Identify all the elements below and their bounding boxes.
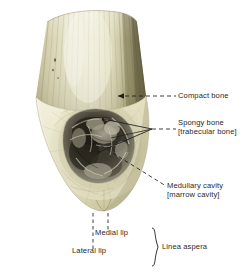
medullary-cavity	[63, 109, 136, 184]
cut-face	[36, 96, 150, 211]
label-medial-lip: Medial lip	[95, 228, 128, 237]
label-compact-bone-text: Compact bone	[178, 91, 229, 100]
linea-aspera-brace	[152, 228, 158, 266]
shaft-right-shadow	[122, 10, 146, 107]
label-medullary-cavity-text: Medullary cavity	[167, 181, 223, 190]
label-lateral-lip-text: Lateral lip	[72, 246, 106, 255]
label-linea-aspera-text: Linea aspera	[162, 242, 207, 251]
bone-cross-section-figure: Compact bone Spongy bone [trabecular bon…	[0, 0, 250, 274]
bone-shaft	[36, 7, 146, 112]
label-spongy-bone: Spongy bone [trabecular bone]	[178, 118, 237, 136]
label-medullary-cavity: Medullary cavity [marrow cavity]	[167, 181, 223, 199]
label-spongy-bone-text: Spongy bone	[178, 118, 237, 127]
label-linea-aspera: Linea aspera	[162, 242, 207, 251]
label-medial-lip-text: Medial lip	[95, 228, 128, 237]
label-spongy-bone-alt-text: [trabecular bone]	[178, 127, 237, 136]
label-medullary-cavity-alt-text: [marrow cavity]	[167, 190, 223, 199]
label-lateral-lip: Lateral lip	[72, 246, 106, 255]
label-compact-bone: Compact bone	[178, 91, 229, 100]
